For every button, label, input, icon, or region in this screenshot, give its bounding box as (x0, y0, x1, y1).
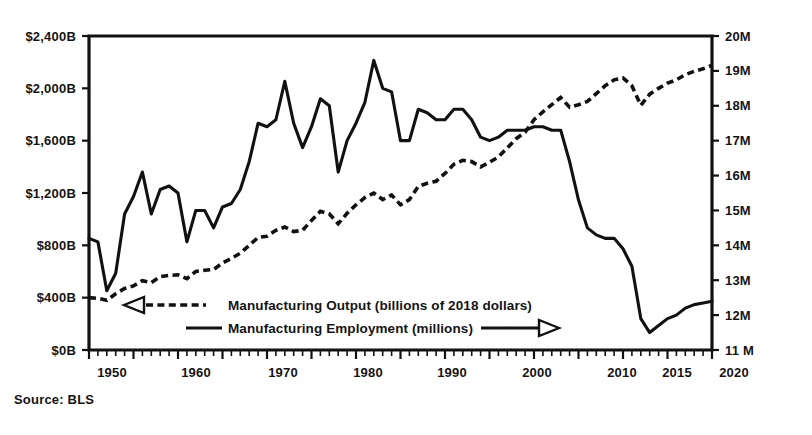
x-tick-label: 2000 (522, 365, 552, 380)
x-tick-label: 2015 (662, 365, 692, 380)
series-line-employment (89, 60, 712, 332)
chart-figure: $2,400B$2,000B$1,600B$1,200B$800B$400B$0… (0, 0, 812, 435)
left-tick-label: $1,200B (25, 186, 76, 201)
right-axis-tick-labels: 20M19M18M17M16M15M14M13M12M11 M (725, 29, 754, 358)
legend-label-output: Manufacturing Output (billions of 2018 d… (228, 298, 532, 313)
right-axis-arrow-icon (539, 320, 559, 336)
left-axis-arrow-icon (124, 297, 144, 313)
data-series (89, 60, 712, 332)
right-tick-label: 20M (725, 29, 751, 44)
left-axis-tick-labels: $2,400B$2,000B$1,600B$1,200B$800B$400B$0… (25, 29, 76, 358)
legend-label-employment: Manufacturing Employment (millions) (228, 321, 473, 336)
x-tick-label: 1980 (353, 365, 383, 380)
left-tick-label: $0B (52, 343, 76, 358)
right-tick-label: 11 M (725, 343, 754, 358)
right-tick-label: 13M (725, 273, 751, 288)
series-line-output (89, 65, 712, 300)
chart-legend: Manufacturing Output (billions of 2018 d… (124, 297, 559, 336)
x-tick-label: 1950 (97, 365, 127, 380)
right-tick-label: 17M (725, 133, 751, 148)
right-tick-label: 16M (725, 168, 751, 183)
right-tick-label: 19M (725, 63, 751, 78)
source-note: Source: BLS (14, 392, 94, 407)
x-axis-tick-labels: 195019601970198019902000201020152020 (97, 365, 749, 380)
manufacturing-chart: $2,400B$2,000B$1,600B$1,200B$800B$400B$0… (0, 0, 812, 435)
left-tick-label: $2,400B (25, 29, 76, 44)
x-tick-label: 1970 (268, 365, 298, 380)
right-tick-label: 15M (725, 203, 751, 218)
left-tick-label: $400B (37, 290, 76, 305)
left-tick-label: $2,000B (25, 81, 76, 96)
right-tick-label: 18M (725, 98, 751, 113)
left-tick-label: $1,600B (25, 133, 76, 148)
x-tick-label: 2020 (719, 365, 749, 380)
right-tick-label: 12M (725, 308, 751, 323)
right-tick-label: 14M (725, 238, 751, 253)
source-note-wrapper: Source: BLS (14, 390, 94, 408)
x-tick-label: 1960 (181, 365, 211, 380)
left-tick-label: $800B (37, 238, 76, 253)
x-tick-label: 2010 (607, 365, 637, 380)
x-tick-label: 1990 (437, 365, 467, 380)
